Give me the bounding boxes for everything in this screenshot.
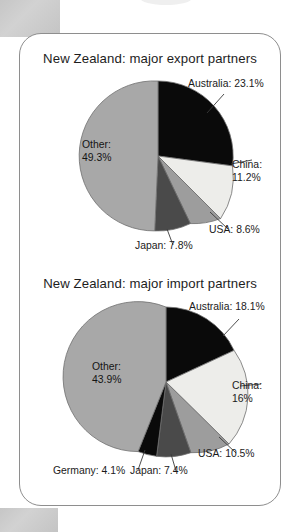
export-label-china-line1: China: (232, 158, 262, 172)
page-edge-block-top (0, 0, 60, 37)
import-other-label-line2: 43.9% (92, 373, 121, 387)
page-top-arc-decoration (140, 0, 192, 5)
export-label-usa: USA: 8.6% (209, 223, 260, 237)
import-label-japan: Japan: 7.4% (130, 464, 188, 478)
export-label-china-line2: 11.2% (232, 171, 261, 185)
page-canvas: New Zealand: major export partners (0, 0, 298, 532)
import-leader-australia (223, 319, 239, 336)
import-label-china-line1: China: (232, 379, 262, 393)
import-label-germany: Germany: 4.1% (53, 464, 125, 478)
export-other-label-line2: 49.3% (82, 151, 111, 165)
import-label-china-line2: 16% (232, 392, 253, 406)
page-edge-block-bottom (0, 508, 58, 532)
export-label-japan: Japan: 7.8% (135, 239, 193, 253)
import-chart-title: New Zealand: major import partners (20, 276, 280, 291)
export-slice-australia (158, 81, 233, 166)
charts-card: New Zealand: major export partners (19, 33, 281, 506)
export-chart-title: New Zealand: major export partners (20, 51, 280, 66)
export-other-label-line1: Other: (82, 138, 111, 152)
import-label-australia: Australia: 18.1% (189, 300, 265, 314)
export-label-australia: Australia: 23.1% (188, 77, 264, 91)
import-other-label-line1: Other: (92, 360, 121, 374)
import-label-usa: USA: 10.5% (198, 447, 255, 461)
